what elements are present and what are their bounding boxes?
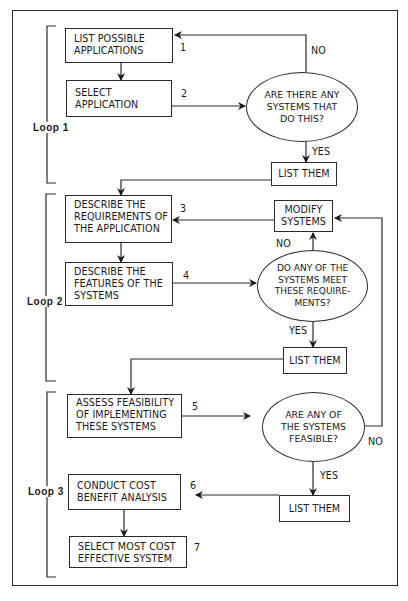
loop-2-label: Loop 2 xyxy=(27,296,63,307)
step-4-number: 4 xyxy=(183,270,189,281)
step-3-box: DESCRIBE THE REQUIREMENTS OF THE APPLICA… xyxy=(65,195,172,243)
modify-systems-box: MODIFY SYSTEMS xyxy=(274,200,333,232)
decision-3-ellipse: ARE ANY OF THE SYSTEMS FEASIBLE? xyxy=(262,392,365,462)
decision-1-ellipse: ARE THERE ANY SYSTEMS THAT DO THIS? xyxy=(246,72,358,142)
step-3-number: 3 xyxy=(180,203,186,214)
step-2-number: 2 xyxy=(181,88,187,99)
list-them-box-2: LIST THEM xyxy=(283,347,347,374)
list-them-box-3: LIST THEM xyxy=(279,495,350,522)
step-6-number: 6 xyxy=(190,480,196,491)
list-them-box-1: LIST THEM xyxy=(271,162,337,186)
decision-3-yes-label: YES xyxy=(320,470,338,481)
loop-1-label: Loop 1 xyxy=(33,122,69,133)
step-5-box: ASSESS FEASIBILITY OF IMPLEMENTING THESE… xyxy=(67,394,182,438)
decision-2-no-label: NO xyxy=(276,238,291,249)
step-1-number: 1 xyxy=(180,42,186,53)
step-1-box: LIST POSSIBLE APPLICATIONS xyxy=(65,28,173,63)
step-7-box: SELECT MOST COST EFFECTIVE SYSTEM xyxy=(69,536,187,568)
step-6-box: CONDUCT COST BENEFIT ANALYSIS xyxy=(68,474,181,510)
decision-1-no-label: NO xyxy=(311,45,326,56)
decision-2-yes-label: YES xyxy=(289,325,307,336)
step-5-number: 5 xyxy=(192,401,198,412)
loop-3-label: Loop 3 xyxy=(28,486,64,497)
decision-1-yes-label: YES xyxy=(312,146,330,157)
step-4-box: DESCRIBE THE FEATURES OF THE SYSTEMS xyxy=(65,262,173,306)
step-7-number: 7 xyxy=(194,542,200,553)
decision-2-ellipse: DO ANY OF THE SYSTEMS MEET THESE REQUIRE… xyxy=(257,250,368,322)
step-2-box: SELECT APPLICATION xyxy=(66,80,172,117)
decision-3-no-label: NO xyxy=(368,436,383,447)
